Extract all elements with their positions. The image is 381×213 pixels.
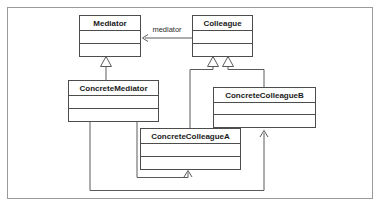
relationship-colleague-to-mediator: mediator: [143, 25, 193, 42]
class-name-label: ConcreteColleagueA: [151, 132, 230, 141]
class-box-concrete-colleague-b[interactable]: ConcreteColleagueB: [214, 88, 316, 128]
generalization-line: [190, 67, 213, 129]
class-box-concrete-colleague-a[interactable]: ConcreteColleagueA: [141, 129, 241, 170]
class-name-label: ConcreteColleagueB: [225, 91, 304, 100]
generalization-triangle-icon: [223, 57, 234, 67]
class-name-label: Colleague: [203, 19, 242, 28]
generalization-triangle-icon: [101, 57, 112, 67]
generalization-triangle-icon: [208, 57, 219, 67]
class-name-label: Mediator: [93, 19, 126, 28]
association-label-mediator: mediator: [152, 25, 182, 34]
generalization-line: [228, 67, 264, 88]
class-box-mediator[interactable]: Mediator: [80, 16, 141, 57]
relationship-concrete-mediator-generalizes-mediator: [101, 57, 112, 81]
diagram-canvas: mediator: [0, 0, 381, 213]
class-box-concrete-mediator[interactable]: ConcreteMediator: [69, 81, 159, 122]
class-box-colleague[interactable]: Colleague: [193, 16, 253, 57]
uml-class-diagram: mediator: [0, 0, 381, 213]
class-name-label: ConcreteMediator: [79, 84, 147, 93]
relationship-concrete-colleague-b-generalizes-colleague: [223, 57, 265, 88]
